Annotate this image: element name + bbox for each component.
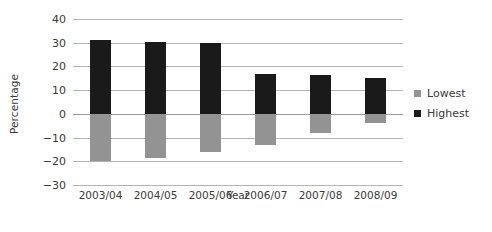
gridline: 20 <box>73 66 403 67</box>
bar-lowest <box>200 114 221 152</box>
legend-swatch-lowest <box>414 90 421 97</box>
gridline: −30 <box>73 185 403 186</box>
y-axis-tick-label: −10 <box>43 132 66 143</box>
bar-lowest <box>310 114 331 133</box>
zero-gridline: 0 <box>73 114 403 115</box>
y-axis-title: Percentage <box>8 59 20 149</box>
plot-area: 403020100−10−20−302003/042004/052005/062… <box>73 19 403 185</box>
bar-lowest <box>90 114 111 161</box>
legend-item-highest[interactable]: Highest <box>414 103 490 123</box>
y-axis-tick-label: 40 <box>52 14 66 25</box>
gridline: −10 <box>73 138 403 139</box>
bar-group <box>255 19 276 185</box>
y-axis-tick-label: 20 <box>52 61 66 72</box>
bar-highest <box>200 43 221 114</box>
bar-highest <box>365 78 386 114</box>
y-axis-tick-label: −20 <box>43 156 66 167</box>
bar-highest <box>255 74 276 114</box>
bar-group <box>200 19 221 185</box>
legend-item-lowest[interactable]: Lowest <box>414 83 490 103</box>
legend-label: Highest <box>427 108 469 119</box>
chart-legend: LowestHighest <box>414 83 490 123</box>
bar-lowest <box>255 114 276 145</box>
bar-lowest <box>145 114 166 158</box>
gridline: −20 <box>73 161 403 162</box>
y-axis-tick-label: 30 <box>52 37 66 48</box>
bar-group <box>145 19 166 185</box>
bar-highest <box>310 75 331 114</box>
legend-swatch-highest <box>414 110 421 117</box>
percentage-by-year-chart: Percentage 403020100−10−20−302003/042004… <box>0 0 492 232</box>
bar-group <box>310 19 331 185</box>
bar-highest <box>145 42 166 114</box>
y-axis-tick-label: −30 <box>43 180 66 191</box>
gridline: 40 <box>73 19 403 20</box>
bar-group <box>365 19 386 185</box>
x-axis-title: Year <box>73 190 403 201</box>
bar-group <box>90 19 111 185</box>
legend-label: Lowest <box>427 88 465 99</box>
bar-lowest <box>365 114 386 123</box>
y-axis-tick-label: 0 <box>59 108 66 119</box>
y-axis-tick-label: 10 <box>52 85 66 96</box>
gridline: 30 <box>73 43 403 44</box>
gridline: 10 <box>73 90 403 91</box>
bar-highest <box>90 40 111 114</box>
